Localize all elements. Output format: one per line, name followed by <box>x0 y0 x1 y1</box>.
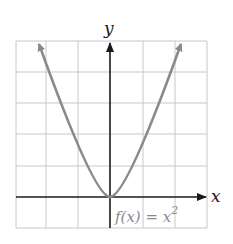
grid <box>16 41 207 228</box>
parabola-curve <box>110 44 181 197</box>
function-exponent: 2 <box>170 204 178 217</box>
y-axis-label: y <box>103 18 114 38</box>
parabola-curve-left <box>39 44 110 197</box>
parabola-graph: y x f(x) = x2 <box>0 0 233 244</box>
function-label-text: f(x) = x <box>114 208 172 226</box>
function-label: f(x) = x2 <box>114 204 178 226</box>
x-axis-label: x <box>211 186 221 206</box>
